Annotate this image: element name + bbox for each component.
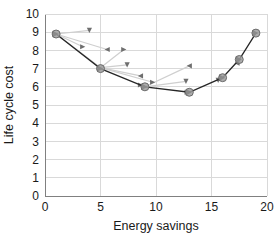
x-tick-20: 20 [260, 200, 274, 214]
x-tick-5: 5 [97, 200, 104, 214]
x-tick-0: 0 [42, 200, 49, 214]
life-cycle-cost-vs-energy-savings-chart: 05101520 012345678910 Energy savings Lif… [0, 0, 280, 237]
x-tick-15: 15 [205, 200, 219, 214]
y-tick-5: 5 [32, 98, 39, 112]
y-tick-10: 10 [26, 7, 40, 21]
y-tick-8: 8 [32, 44, 39, 58]
y-axis-title: Life cycle cost [2, 65, 16, 144]
y-tick-4: 4 [32, 116, 39, 130]
y-tick-0: 0 [32, 189, 39, 203]
x-tick-10: 10 [149, 200, 163, 214]
y-tick-7: 7 [32, 62, 39, 76]
y-tick-6: 6 [32, 80, 39, 94]
x-axis-title: Energy savings [113, 219, 198, 233]
y-tick-2: 2 [32, 153, 39, 167]
y-tick-3: 3 [32, 135, 39, 149]
chart-container: 05101520 012345678910 Energy savings Lif… [0, 0, 280, 237]
y-tick-9: 9 [32, 25, 39, 39]
y-tick-1: 1 [32, 171, 39, 185]
